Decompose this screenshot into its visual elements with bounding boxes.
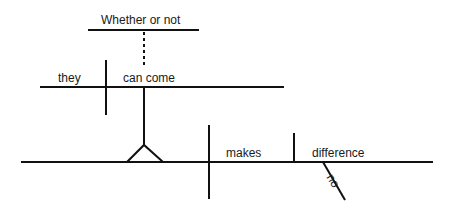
clause-subject-label: they <box>58 72 81 84</box>
main-verb-label: makes <box>226 147 261 159</box>
pedestal-base <box>127 145 163 162</box>
clause-verb-label: can come <box>123 72 175 84</box>
direct-object-label: difference <box>312 147 364 159</box>
diagram-lines <box>0 0 455 214</box>
connector-label: Whether or not <box>101 14 180 26</box>
